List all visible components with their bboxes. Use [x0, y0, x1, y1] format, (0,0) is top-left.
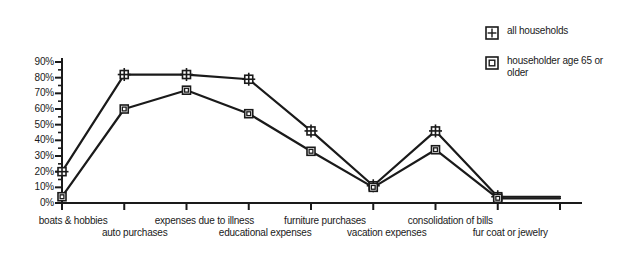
x-tick-label: consolidation of bills — [408, 215, 493, 226]
y-tick-label: 70% — [14, 88, 54, 98]
legend-item-all-households[interactable]: all households — [485, 25, 568, 40]
x-tick-label: fur coat or jewelry — [473, 227, 548, 238]
square-plus-icon — [485, 26, 499, 40]
data-series — [56, 68, 561, 203]
x-tick-label: furniture purchases — [284, 215, 366, 226]
x-tick-label: vacation expenses — [347, 227, 426, 238]
y-tick-label: 30% — [14, 151, 54, 161]
y-tick-label: 0% — [14, 198, 54, 208]
x-tick-label: auto purchases — [102, 227, 168, 238]
y-tick-label: 80% — [14, 73, 54, 83]
legend-item-householder-age-65-or-older[interactable]: householder age 65 or older — [485, 55, 625, 79]
y-tick-label: 60% — [14, 104, 54, 114]
axes — [55, 58, 582, 210]
y-tick-label: 40% — [14, 135, 54, 145]
x-tick-label: boats & hobbies — [39, 215, 108, 226]
series-all-households — [56, 68, 561, 203]
square-nested-icon — [485, 56, 499, 70]
y-tick-label: 20% — [14, 167, 54, 177]
x-tick-label: expenses due to illness — [155, 215, 254, 226]
chart-container: 0%10%20%30%40%50%60%70%80%90% boats & ho… — [0, 0, 641, 260]
y-tick-label: 10% — [14, 182, 54, 192]
y-tick-label: 50% — [14, 120, 54, 130]
series-householder-age-65-or-older — [58, 86, 560, 202]
x-tick-label: educational expenses — [219, 227, 312, 238]
legend-label-householder-age-65-or-older: householder age 65 or older — [507, 55, 625, 79]
y-tick-label: 90% — [14, 57, 54, 67]
legend-label-all-households: all households — [507, 25, 568, 37]
